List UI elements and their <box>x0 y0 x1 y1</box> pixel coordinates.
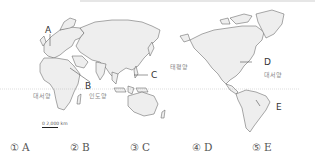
choice-4[interactable]: ④D <box>192 141 212 153</box>
marker-d: D <box>264 58 271 67</box>
marker-c: C <box>151 71 157 80</box>
ocean-label-atlantic-west: 대서양 <box>33 93 51 99</box>
choice-3[interactable]: ③C <box>130 141 150 153</box>
map-scale-bar <box>42 127 58 128</box>
ocean-label-indian: 인도양 <box>89 93 107 99</box>
marker-b: B <box>85 82 91 91</box>
answer-choices: ①A ②B ③C ④D ⑤E <box>10 141 310 157</box>
choice-1[interactable]: ①A <box>10 141 30 153</box>
ocean-label-pacific: 태평양 <box>170 64 188 70</box>
choice-5[interactable]: ⑤E <box>252 141 272 153</box>
marker-a: A <box>45 26 51 35</box>
map-scale-label: 0 2,000 km <box>42 121 68 126</box>
ocean-label-atlantic-east: 대서양 <box>264 72 282 78</box>
marker-e: E <box>276 103 282 112</box>
choice-2[interactable]: ②B <box>70 141 90 153</box>
